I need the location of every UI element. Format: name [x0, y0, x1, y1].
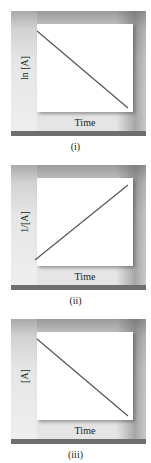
- panel-base-bar: [11, 285, 146, 290]
- caption-i: (i): [0, 141, 151, 152]
- data-line: [37, 31, 128, 108]
- x-axis-label: Time: [37, 117, 133, 128]
- line-plot: [37, 332, 133, 420]
- chart-panel-iii: [A] Time: [11, 319, 146, 444]
- line-plot: [37, 24, 133, 112]
- panel-base-bar: [11, 131, 146, 136]
- data-line: [35, 185, 128, 260]
- line-plot: [37, 178, 133, 266]
- chart-panel-ii: 1/[A] Time: [11, 165, 146, 290]
- x-axis-label: Time: [37, 425, 133, 436]
- y-axis-label: ln [A]: [19, 56, 30, 80]
- plot-area: [37, 24, 133, 112]
- y-axis-label: [A]: [19, 369, 30, 383]
- plot-area: [37, 178, 133, 266]
- panel-base-bar: [11, 439, 146, 444]
- x-axis-label: Time: [37, 271, 133, 282]
- chart-panel-i: ln [A] Time: [11, 11, 146, 136]
- caption-iii: (iii): [0, 449, 151, 460]
- data-line: [37, 339, 128, 416]
- caption-ii: (ii): [0, 295, 151, 306]
- plot-area: [37, 332, 133, 420]
- y-axis-label: 1/[A]: [19, 211, 30, 233]
